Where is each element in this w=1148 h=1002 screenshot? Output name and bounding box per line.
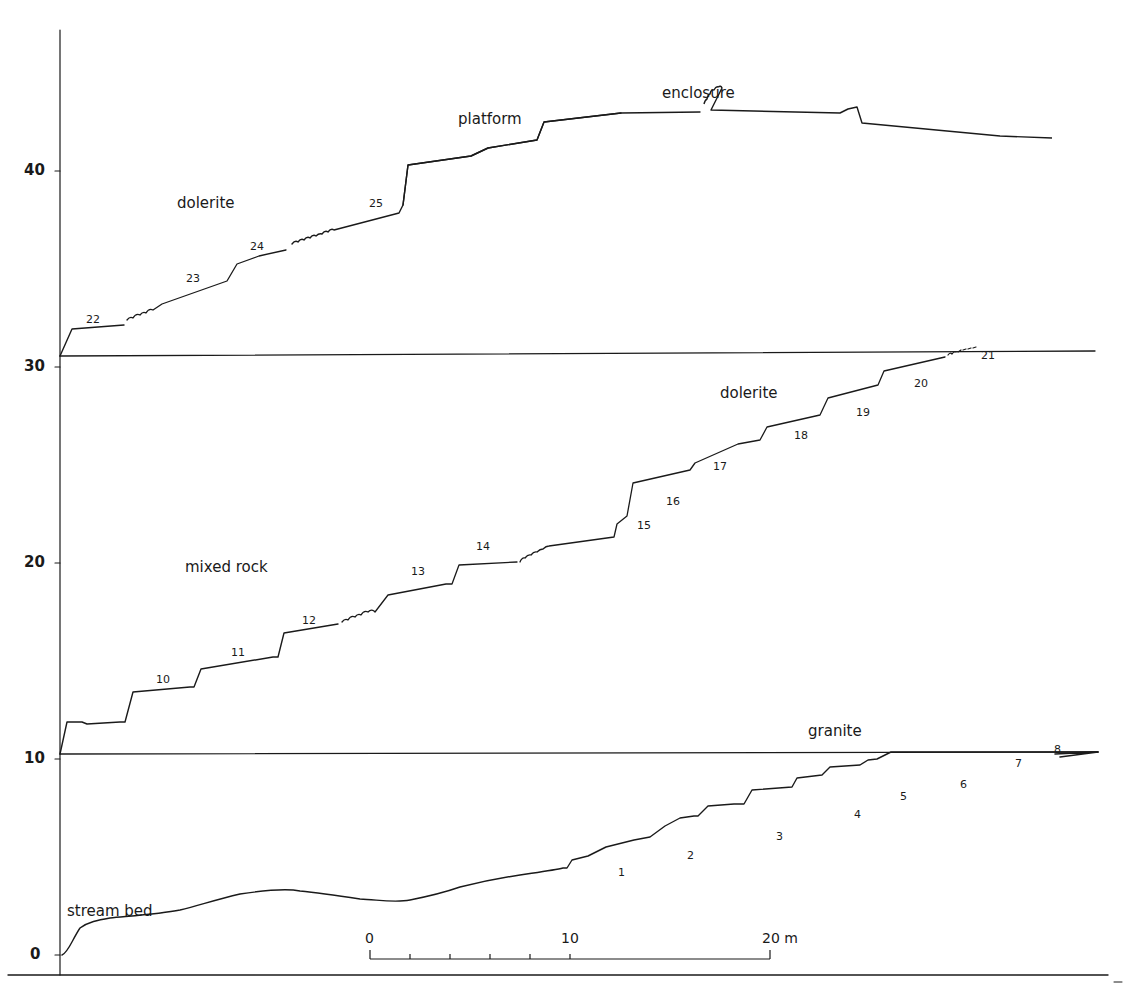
scale-label-0: 0 [365, 930, 374, 946]
scale-label-20m: 20 m [762, 930, 798, 946]
scale-bar [0, 0, 1148, 1002]
scale-label-10: 10 [561, 930, 579, 946]
